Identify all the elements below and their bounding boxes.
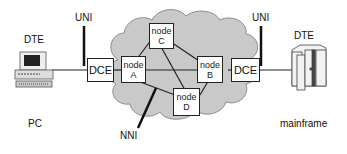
right-dce-box: DCE [231, 58, 260, 82]
node-c: node C [149, 23, 174, 49]
node-d-line2: D [183, 102, 190, 112]
nni-label: NNI [120, 130, 137, 141]
node-b: node B [197, 56, 223, 83]
node-c-line2: C [158, 36, 165, 46]
left-dce-box: DCE [87, 58, 114, 82]
pc-icon [15, 52, 53, 87]
node-b-line2: B [207, 70, 213, 80]
node-a: node A [121, 56, 146, 83]
node-d: node D [173, 88, 200, 116]
node-b-line1: node [200, 60, 220, 70]
right-device-label: mainframe [280, 118, 327, 129]
mainframe-icon [292, 45, 326, 90]
left-dce-label: DCE [89, 64, 112, 76]
node-a-line2: A [130, 70, 136, 80]
left-dte-label: DTE [24, 34, 44, 45]
right-uni-label: UNI [252, 12, 269, 23]
left-uni-label: UNI [75, 12, 92, 23]
node-a-line1: node [123, 60, 143, 70]
right-dce-label: DCE [234, 64, 257, 76]
node-c-line1: node [151, 26, 171, 36]
right-dte-label: DTE [294, 30, 314, 41]
left-device-label: PC [28, 118, 42, 129]
node-d-line1: node [176, 92, 196, 102]
